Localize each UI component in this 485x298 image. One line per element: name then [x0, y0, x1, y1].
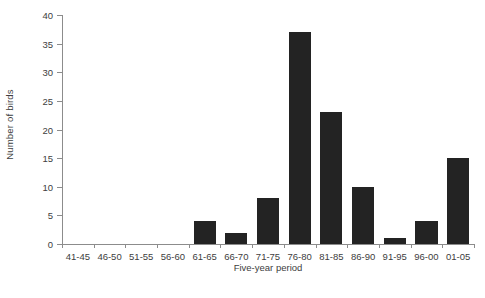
y-tick: 10	[57, 187, 62, 188]
y-tick-label: 0	[48, 239, 53, 250]
y-tick: 35	[57, 44, 62, 45]
y-axis-title-text: Number of birds	[4, 89, 15, 160]
y-tick-label: 5	[48, 210, 53, 221]
x-tick-label: 76-80	[288, 251, 312, 262]
y-tick-label: 40	[42, 10, 53, 21]
bar	[447, 158, 469, 244]
bar	[384, 238, 406, 244]
bar	[225, 233, 247, 244]
y-tick-label: 10	[42, 181, 53, 192]
y-axis-title: Number of birds	[0, 0, 18, 248]
y-tick-label: 35	[42, 38, 53, 49]
x-tick-label: 96-00	[414, 251, 438, 262]
x-tick-label: 61-65	[192, 251, 216, 262]
x-axis-title: Five-year period	[62, 262, 474, 273]
x-tick	[125, 244, 126, 248]
x-tick	[347, 244, 348, 248]
x-tick	[379, 244, 380, 248]
x-tick-label: 86-90	[351, 251, 375, 262]
x-tick-label: 51-55	[129, 251, 153, 262]
x-tick	[189, 244, 190, 248]
x-tick-label: 71-75	[256, 251, 280, 262]
x-tick-label: 56-60	[161, 251, 185, 262]
x-axis-line	[62, 244, 474, 245]
y-tick-label: 25	[42, 95, 53, 106]
x-tick	[252, 244, 253, 248]
bar	[289, 32, 311, 244]
x-tick	[316, 244, 317, 248]
y-tick: 20	[57, 130, 62, 131]
y-tick: 40	[57, 15, 62, 16]
bar	[257, 198, 279, 244]
x-tick	[94, 244, 95, 248]
plot-area: 0510152025303540 41-4546-5051-5556-6061-…	[62, 15, 474, 244]
x-tick-label: 01-05	[446, 251, 470, 262]
y-axis-line	[62, 15, 63, 244]
x-tick-label: 81-85	[319, 251, 343, 262]
bar	[415, 221, 437, 244]
y-tick-label: 30	[42, 67, 53, 78]
y-tick: 15	[57, 158, 62, 159]
bar	[320, 112, 342, 244]
x-tick-label: 91-95	[383, 251, 407, 262]
x-tick-label: 66-70	[224, 251, 248, 262]
x-tick	[220, 244, 221, 248]
bar	[352, 187, 374, 244]
y-tick: 25	[57, 101, 62, 102]
x-tick	[284, 244, 285, 248]
y-tick-label: 20	[42, 124, 53, 135]
x-tick-label: 46-50	[97, 251, 121, 262]
y-tick-label: 15	[42, 153, 53, 164]
x-tick	[157, 244, 158, 248]
bar-chart-figure: Number of birds 0510152025303540 41-4546…	[0, 0, 485, 298]
x-tick	[62, 244, 63, 248]
y-tick: 5	[57, 215, 62, 216]
x-tick-label: 41-45	[66, 251, 90, 262]
y-tick: 30	[57, 72, 62, 73]
bar	[194, 221, 216, 244]
x-tick	[474, 244, 475, 248]
x-tick	[411, 244, 412, 248]
x-tick	[442, 244, 443, 248]
